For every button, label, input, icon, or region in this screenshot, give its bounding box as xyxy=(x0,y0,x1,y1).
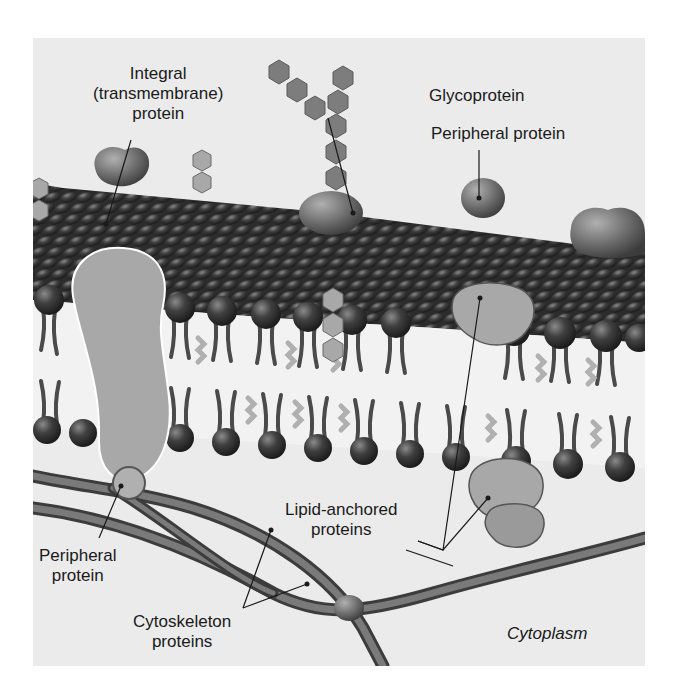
label-peripheral-bottom-line2: protein xyxy=(39,566,117,586)
label-peripheral-protein-top: Peripheral protein xyxy=(431,124,565,144)
label-lipid-anchored-line1: Lipid-anchored xyxy=(285,500,397,520)
label-glycoprotein: Glycoprotein xyxy=(429,86,524,106)
label-integral-protein: Integral (transmembrane) protein xyxy=(93,64,223,124)
label-peripheral-bottom-line1: Peripheral xyxy=(39,546,117,566)
label-lipid-anchored-proteins: Lipid-anchored proteins xyxy=(285,500,397,540)
label-lipid-anchored-line2: proteins xyxy=(285,520,397,540)
label-integral-line2: (transmembrane) xyxy=(93,84,223,104)
membrane-diagram: Integral (transmembrane) protein Glycopr… xyxy=(33,38,645,666)
label-cytoskeleton-line1: Cytoskeleton xyxy=(133,612,231,632)
carbohydrate-chain xyxy=(269,60,353,190)
label-cytoskeleton-proteins: Cytoskeleton proteins xyxy=(133,612,231,652)
label-integral-line1: Integral xyxy=(93,64,223,84)
label-cytoskeleton-line2: proteins xyxy=(133,632,231,652)
label-integral-line3: protein xyxy=(93,104,223,124)
label-cytoplasm: Cytoplasm xyxy=(507,624,587,644)
label-peripheral-protein-bottom: Peripheral protein xyxy=(39,546,117,586)
